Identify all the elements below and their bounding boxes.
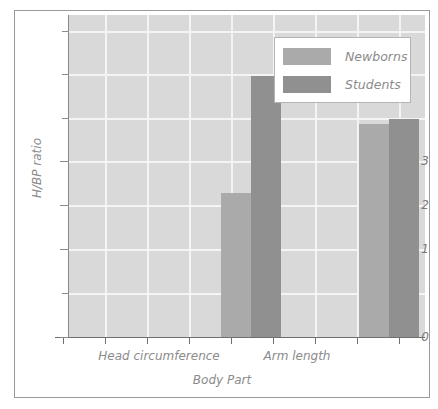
- y-tick-minor: [62, 293, 69, 294]
- y-tick-major: [60, 249, 69, 250]
- y-axis-label-3: 3: [391, 154, 429, 168]
- x-tick: [231, 338, 232, 344]
- y-tick-minor: [62, 74, 69, 75]
- bar-arm-length-students: [389, 119, 419, 337]
- y-axis-label-2: 2: [391, 198, 429, 212]
- y-axis-title: H/BP ratio: [30, 118, 44, 218]
- legend-label-students: Students: [345, 77, 401, 92]
- legend-swatch-students: [283, 76, 331, 93]
- x-tick: [189, 338, 190, 344]
- chart-figure: Newborns Students 3 2 1 0 Head circumfer…: [14, 10, 430, 398]
- x-axis-title: Body Part: [15, 373, 429, 387]
- gridline-vertical: [189, 15, 191, 337]
- bar-arm-length-newborns: [359, 124, 389, 337]
- y-axis-line: [68, 15, 69, 337]
- x-tick: [147, 338, 148, 344]
- legend-swatch-newborns: [283, 48, 331, 65]
- y-tick-major: [60, 205, 69, 206]
- legend-item-students: Students: [283, 73, 402, 95]
- gridline-horizontal: [69, 31, 425, 33]
- legend-label-newborns: Newborns: [345, 49, 407, 64]
- plot-area: Newborns Students: [69, 15, 425, 337]
- x-tick: [105, 338, 106, 344]
- gridline-horizontal: [69, 118, 425, 120]
- gridline-vertical: [105, 15, 107, 337]
- x-tick: [63, 338, 64, 344]
- x-tick: [273, 338, 274, 344]
- y-axis-label-0: 0: [391, 330, 429, 344]
- bar-head-circumference-newborns: [221, 193, 251, 337]
- gridline-vertical: [147, 15, 149, 337]
- x-axis-category-head-circumference: Head circumference: [98, 349, 219, 363]
- x-tick: [357, 338, 358, 344]
- y-tick-minor: [62, 31, 69, 32]
- y-axis-label-1: 1: [391, 242, 429, 256]
- y-tick-major: [60, 337, 69, 338]
- legend-item-newborns: Newborns: [283, 45, 402, 67]
- bar-head-circumference-students: [251, 76, 281, 337]
- x-tick: [399, 338, 400, 344]
- x-axis-category-arm-length: Arm length: [264, 349, 331, 363]
- chart-legend: Newborns Students: [274, 37, 411, 103]
- x-tick: [315, 338, 316, 344]
- y-tick-minor: [62, 118, 69, 119]
- x-axis-line: [55, 337, 425, 338]
- y-tick-major: [60, 161, 69, 162]
